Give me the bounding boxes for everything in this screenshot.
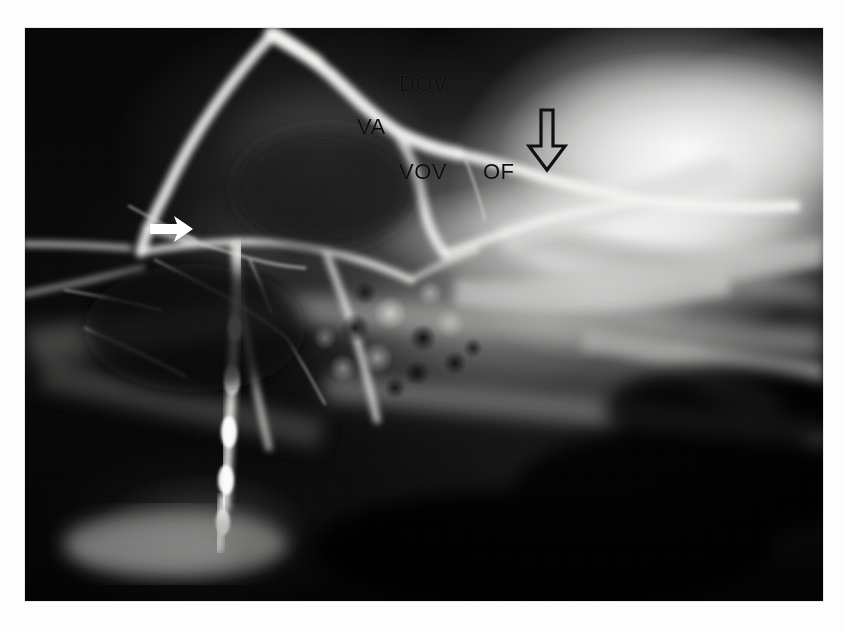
label-dov: DOV (399, 73, 448, 95)
label-of: OF (483, 161, 515, 183)
label-va: VA (357, 116, 386, 138)
solid-arrowhead-icon (150, 216, 193, 242)
label-vov: VOV (399, 161, 447, 183)
open-arrow-icon (529, 110, 565, 170)
figure-page: DOV VA VOV OF (0, 0, 845, 632)
radiograph-film: DOV VA VOV OF (25, 28, 823, 601)
annotation-markers-layer (25, 28, 823, 601)
radiograph-plate: DOV VA VOV OF (25, 28, 823, 601)
